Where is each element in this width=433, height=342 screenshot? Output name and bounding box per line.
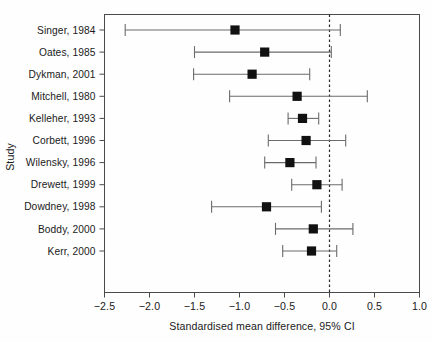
effect-estimate-marker bbox=[307, 246, 316, 255]
study-label: Singer, 1984 bbox=[37, 25, 96, 36]
effect-estimate-marker bbox=[248, 70, 257, 79]
study-label: Drewett, 1999 bbox=[31, 179, 96, 190]
x-tick-label: −1.0 bbox=[229, 300, 250, 312]
study-row bbox=[212, 201, 322, 213]
effect-estimate-marker bbox=[285, 158, 294, 167]
x-axis-title: Standardised mean difference, 95% CI bbox=[169, 320, 354, 332]
study-row bbox=[265, 157, 316, 169]
effect-estimate-marker bbox=[312, 180, 321, 189]
study-row bbox=[268, 135, 345, 147]
effect-estimate-marker bbox=[260, 48, 269, 57]
study-label: Kerr, 2000 bbox=[47, 246, 95, 257]
forest-plot-svg: −2.5−2.0−1.5−1.0−0.50.00.51.0 Singer, 19… bbox=[0, 0, 433, 342]
x-tick-label: −0.5 bbox=[274, 300, 295, 312]
study-labels-group: Singer, 1984Oates, 1985Dykman, 2001Mitch… bbox=[24, 25, 96, 257]
study-row bbox=[125, 24, 340, 36]
study-label: Dowdney, 1998 bbox=[24, 201, 96, 212]
effect-estimate-marker bbox=[302, 136, 311, 145]
study-row bbox=[276, 223, 353, 235]
x-tick-label: −2.0 bbox=[139, 300, 160, 312]
study-row bbox=[283, 245, 337, 257]
study-label: Boddy, 2000 bbox=[38, 224, 96, 235]
x-tick-label: −2.5 bbox=[94, 300, 115, 312]
study-label: Mitchell, 1980 bbox=[31, 91, 95, 102]
study-label: Corbett, 1996 bbox=[32, 135, 95, 146]
study-label: Dykman, 2001 bbox=[29, 69, 96, 80]
study-row bbox=[230, 90, 368, 102]
x-tick-label: 0.0 bbox=[322, 300, 337, 312]
effect-estimate-marker bbox=[298, 114, 307, 123]
study-label: Wilensky, 1996 bbox=[26, 157, 96, 168]
x-tick-label: −1.5 bbox=[184, 300, 205, 312]
study-label: Kelleher, 1993 bbox=[29, 113, 96, 124]
x-tick-label: 0.5 bbox=[367, 300, 382, 312]
study-row bbox=[195, 46, 332, 58]
study-rows-group bbox=[125, 24, 367, 257]
effect-estimate-marker bbox=[230, 25, 239, 34]
forest-plot-figure: −2.5−2.0−1.5−1.0−0.50.00.51.0 Singer, 19… bbox=[0, 0, 433, 342]
study-label: Oates, 1985 bbox=[39, 47, 96, 58]
y-axis-ticks-group bbox=[100, 30, 105, 251]
effect-estimate-marker bbox=[293, 92, 302, 101]
effect-estimate-marker bbox=[262, 202, 271, 211]
effect-estimate-marker bbox=[309, 224, 318, 233]
study-row bbox=[194, 68, 310, 80]
x-axis-ticks-group: −2.5−2.0−1.5−1.0−0.50.00.51.0 bbox=[94, 293, 427, 312]
study-row bbox=[288, 112, 319, 124]
study-row bbox=[292, 179, 342, 191]
y-axis-title: Study bbox=[4, 143, 16, 171]
x-tick-label: 1.0 bbox=[412, 300, 427, 312]
